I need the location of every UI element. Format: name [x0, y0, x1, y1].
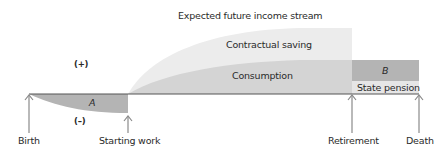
area-b-label: B [382, 66, 388, 76]
death-label: Death [406, 136, 434, 146]
area-a-label: A [89, 98, 95, 108]
positive-sign-label: (+) [74, 60, 88, 69]
negative-sign-label: (–) [74, 117, 85, 126]
contractual-saving-label: Contractual saving [226, 40, 312, 50]
life-cycle-income-diagram [0, 0, 447, 155]
starting-work-label: Starting work [99, 136, 160, 146]
death-arrow-icon [415, 95, 423, 133]
starting-work-arrow-icon [124, 116, 132, 133]
birth-arrow-icon [25, 95, 33, 133]
state-pension-label: State pension [357, 83, 420, 93]
area-a-region [29, 94, 128, 113]
birth-label: Birth [18, 136, 40, 146]
diagram-title: Expected future income stream [178, 11, 322, 21]
retirement-arrow-icon [348, 95, 356, 133]
retirement-label: Retirement [328, 136, 379, 146]
consumption-label: Consumption [232, 71, 293, 81]
